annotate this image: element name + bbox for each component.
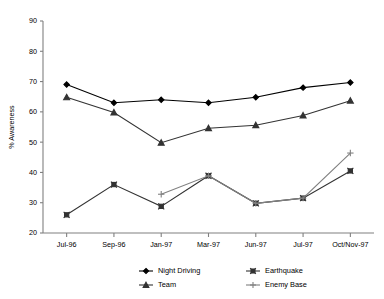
- y-axis-title: % Awareness: [7, 105, 16, 149]
- y-axis: 2030405060708090: [29, 16, 43, 237]
- legend-label: Team: [158, 280, 176, 289]
- chart-canvas: 2030405060708090 Jul-96Sep-96Jan-97Mar-9…: [0, 0, 384, 299]
- x-tick-label: Jun-97: [245, 240, 267, 249]
- marker-diamond: [159, 97, 164, 102]
- marker-diamond: [111, 100, 116, 105]
- line-chart: 2030405060708090 Jul-96Sep-96Jan-97Mar-9…: [0, 0, 384, 299]
- x-axis: Jul-96Sep-96Jan-97Mar-97Jun-97Jul-97Oct/…: [43, 233, 374, 249]
- x-tick-label: Jul-97: [293, 240, 313, 249]
- x-tick-label: Sep-96: [102, 240, 125, 249]
- marker-diamond: [143, 268, 148, 273]
- marker-triangle: [253, 122, 259, 127]
- legend-item-earthquake[interactable]: Earthquake: [246, 266, 303, 275]
- y-tick-label: 60: [29, 107, 37, 116]
- y-tick-label: 70: [29, 77, 37, 86]
- marker-square: [158, 203, 164, 209]
- marker-triangle: [143, 282, 149, 287]
- marker-square: [250, 268, 256, 274]
- x-tick-label: Jan-97: [150, 240, 172, 249]
- marker-plus: [158, 191, 164, 197]
- legend-label: Enemy Base: [265, 280, 307, 289]
- y-tick-label: 30: [29, 198, 37, 207]
- legend-item-team[interactable]: Team: [139, 280, 176, 289]
- series-enemy-base: [158, 150, 354, 207]
- marker-square: [111, 182, 117, 188]
- y-tick-label: 40: [29, 168, 37, 177]
- x-tick-label: Oct/Nov-97: [332, 240, 368, 249]
- marker-triangle: [111, 109, 117, 114]
- marker-triangle: [158, 140, 164, 145]
- y-tick-label: 90: [29, 16, 37, 25]
- marker-diamond: [253, 95, 258, 100]
- x-tick-label: Jul-96: [57, 240, 77, 249]
- chart-legend: Night DrivingEarthquakeTeamEnemy Base: [139, 266, 307, 289]
- marker-triangle: [300, 112, 306, 117]
- series-polyline: [161, 153, 350, 203]
- legend-label: Night Driving: [158, 266, 200, 275]
- legend-item-enemy-base[interactable]: Enemy Base: [246, 280, 307, 289]
- marker-square: [64, 212, 70, 218]
- x-tick-label: Mar-97: [197, 240, 220, 249]
- y-tick-label: 20: [29, 228, 37, 237]
- marker-square: [347, 168, 353, 174]
- legend-item-night-driving[interactable]: Night Driving: [139, 266, 200, 275]
- marker-triangle: [347, 98, 353, 103]
- series-layer: [64, 80, 354, 218]
- y-tick-label: 80: [29, 47, 37, 56]
- marker-plus: [250, 282, 256, 288]
- series-night-driving: [64, 80, 353, 106]
- y-tick-label: 50: [29, 138, 37, 147]
- marker-triangle: [206, 125, 212, 130]
- marker-diamond: [348, 80, 353, 85]
- legend-label: Earthquake: [265, 266, 303, 275]
- marker-diamond: [300, 85, 305, 90]
- marker-diamond: [64, 82, 69, 87]
- marker-diamond: [206, 100, 211, 105]
- marker-triangle: [64, 94, 70, 99]
